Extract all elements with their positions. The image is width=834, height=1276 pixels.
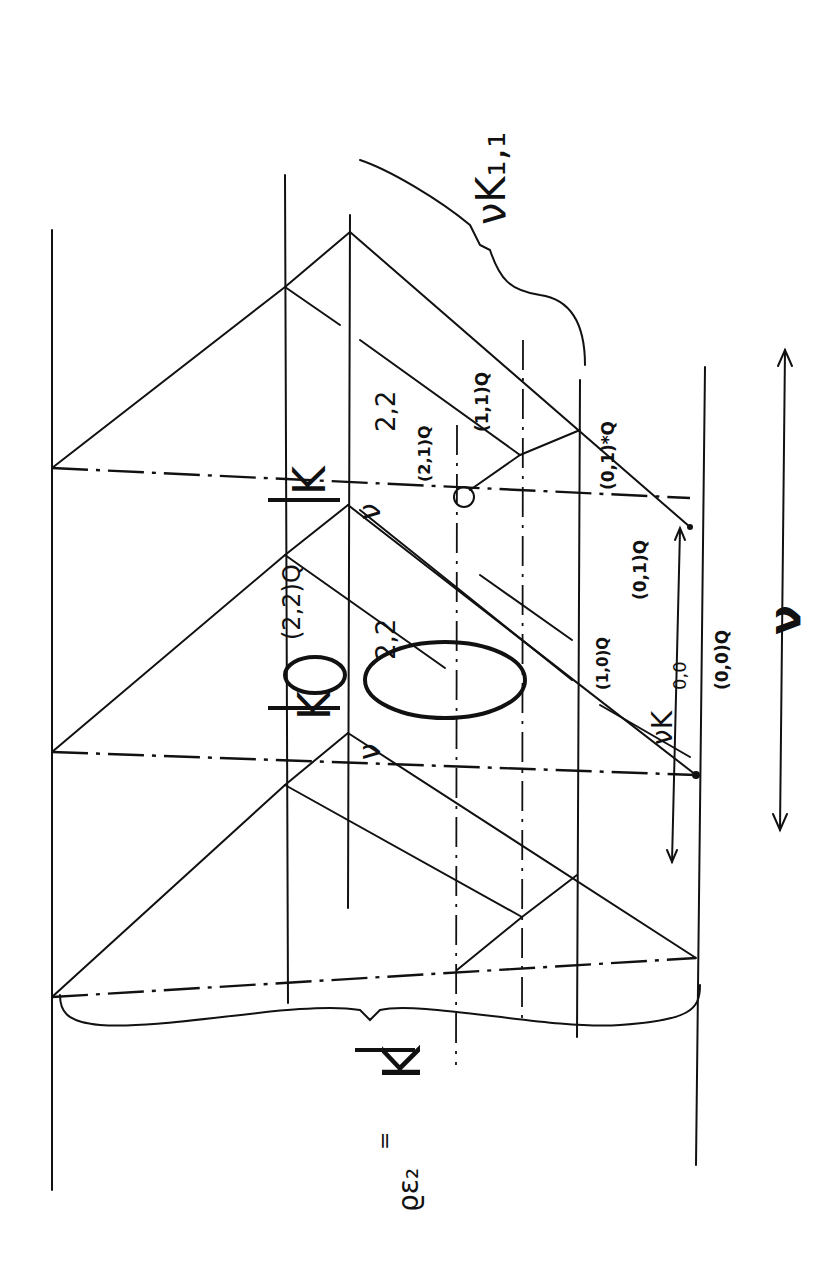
upper-dashed-cross-line bbox=[52, 468, 690, 498]
label-nu-top: ν bbox=[352, 503, 387, 520]
label-K22-top-sub: 2,2 bbox=[371, 391, 401, 432]
label-nu-bottom: ν bbox=[352, 743, 387, 760]
label-nu-axis: ν bbox=[759, 605, 810, 635]
origin-point bbox=[692, 771, 700, 779]
lower-triangle-right-edge bbox=[348, 733, 696, 958]
label-q01: (0,1)Q bbox=[630, 540, 650, 600]
nuK00-arrow bbox=[672, 530, 680, 862]
upper-inner-diag-4 bbox=[470, 455, 520, 490]
label-q01-star: (0,1)*Q bbox=[598, 421, 618, 490]
upper-triangle-right-edge bbox=[350, 232, 690, 527]
vertical-line-6 bbox=[577, 380, 580, 1037]
lower-triangle-left-edge bbox=[52, 785, 285, 997]
label-nu-K11: νK₁,₁ bbox=[468, 132, 514, 225]
lower-dashed-cross-line bbox=[52, 958, 696, 997]
label-rho-epsilon: ϱε₂ bbox=[392, 1168, 425, 1212]
upper-triangle-left-edge bbox=[52, 287, 285, 468]
middle-triangle-apex-left bbox=[285, 505, 348, 555]
right-vertical-line bbox=[696, 367, 705, 1165]
middle-inner-diag bbox=[285, 555, 445, 668]
diagram-canvas: νK₁,₁ K 2,2 K 2,2 νK 0,0 ν K = ϱε₂ (1,1)… bbox=[0, 0, 834, 1276]
upper-right-point bbox=[687, 524, 693, 530]
label-q21: (2,1)Q bbox=[415, 425, 434, 482]
label-K22-mid-sub: 2,2 bbox=[371, 619, 401, 660]
upper-inner-diag-3 bbox=[520, 430, 580, 455]
arrow-line-01star bbox=[480, 575, 572, 640]
label-nu-K00-sub: 0,0 bbox=[669, 661, 690, 690]
label-q10: (1,0)Q bbox=[594, 637, 612, 690]
small-ellipse-22 bbox=[285, 657, 345, 693]
lower-inner-diag-2 bbox=[522, 875, 577, 917]
upper-triangle-apex-left bbox=[285, 232, 350, 287]
lower-inner-diag-1 bbox=[285, 785, 522, 917]
vertical-line-3 bbox=[348, 215, 350, 908]
label-nu-K00: νK bbox=[646, 710, 679, 745]
label-K22-top: K bbox=[284, 465, 335, 495]
label-q00: (0,0)Q bbox=[712, 630, 732, 690]
upper-inner-diag-1 bbox=[285, 287, 340, 325]
lower-inner-diag-3 bbox=[457, 917, 522, 970]
label-equals: = bbox=[372, 1132, 397, 1150]
label-K22-mid: K bbox=[289, 690, 340, 720]
label-q11: (1,1)Q bbox=[472, 372, 492, 432]
middle-triangle-left-edge bbox=[52, 555, 285, 752]
bottom-brace bbox=[60, 985, 700, 1026]
nu-axis-arrow bbox=[780, 350, 785, 830]
label-q22: (2,2)Q bbox=[278, 564, 306, 640]
lower-triangle-apex-left bbox=[285, 733, 348, 785]
